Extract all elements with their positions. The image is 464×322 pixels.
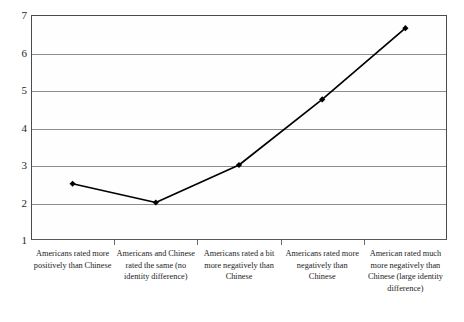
plot-area xyxy=(31,15,447,240)
x-axis-label-2: Americans and Chinese rated the same (no… xyxy=(114,243,197,322)
gridline-5 xyxy=(32,91,446,92)
x-axis-labels: Americans rated more positively than Chi… xyxy=(31,243,447,322)
x-axis-label-5: American rated much more negatively than… xyxy=(364,243,447,322)
gridline-3 xyxy=(32,166,446,167)
y-tick-label-3: 3 xyxy=(3,160,27,171)
x-axis-label-4: Americans rated more negatively than Chi… xyxy=(281,243,364,322)
x-axis-label-3: Americans rated a bit more negatively th… xyxy=(197,243,280,322)
x-axis-label-1: Americans rated more positively than Chi… xyxy=(31,243,114,322)
gridline-2 xyxy=(32,204,446,205)
line-chart: 7 6 5 4 3 2 1 Americans rated more posit… xyxy=(0,0,464,322)
y-tick-label-2: 2 xyxy=(3,197,27,208)
y-tick-label-1: 1 xyxy=(3,235,27,246)
y-axis: 7 6 5 4 3 2 1 xyxy=(0,15,27,240)
y-tick-label-6: 6 xyxy=(3,47,27,58)
gridline-4 xyxy=(32,129,446,130)
y-tick-label-5: 5 xyxy=(3,85,27,96)
gridline-6 xyxy=(32,54,446,55)
y-tick-label-4: 4 xyxy=(3,122,27,133)
y-tick-label-7: 7 xyxy=(3,10,27,21)
